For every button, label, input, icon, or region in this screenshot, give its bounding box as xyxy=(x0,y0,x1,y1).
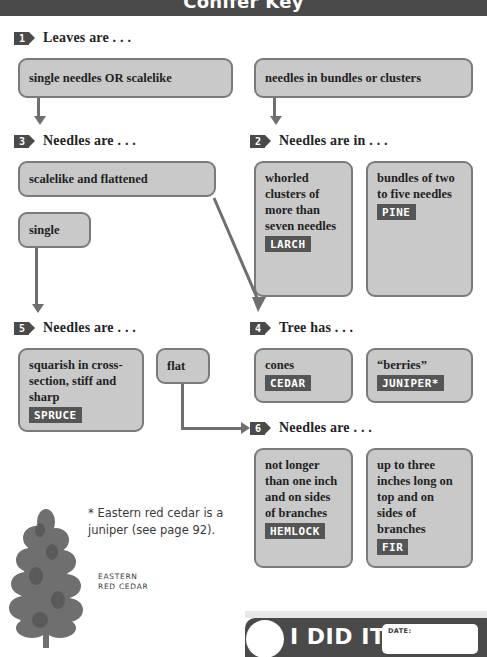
box-pine[interactable]: bundles of two to five needles PINE xyxy=(366,161,473,297)
box-scalelike-flattened-text: scalelike and flattened xyxy=(29,171,148,187)
box-cedar[interactable]: cones CEDAR xyxy=(254,348,353,403)
step-number-badge-2: 2 xyxy=(250,135,265,148)
step-header-5: 5 Needles are . . . xyxy=(14,320,136,336)
step-title-3: Needles are . . . xyxy=(43,133,136,149)
box-scalelike-flattened[interactable]: scalelike and flattened xyxy=(18,161,216,197)
connector-arrow-2 xyxy=(270,116,282,125)
box-flat-text: flat xyxy=(167,358,185,374)
species-chip-juniper: JUNIPER* xyxy=(377,375,444,391)
connector-line-2 xyxy=(273,98,276,118)
step-header-4: 4 Tree has . . . xyxy=(250,320,353,336)
box-hemlock-text: not longer than one inch and on sides of… xyxy=(265,457,342,521)
step-header-6: 6 Needles are . . . xyxy=(250,420,372,436)
connector-line-1 xyxy=(37,98,40,118)
box-juniper[interactable]: “berries” JUNIPER* xyxy=(366,348,473,403)
box-single-needles[interactable]: single needles OR scalelike xyxy=(18,58,233,98)
species-chip-hemlock: HEMLOCK xyxy=(265,523,325,539)
i-did-it-label: I DID IT! xyxy=(290,624,396,649)
tree-caption-line1: EASTERN xyxy=(98,572,148,582)
species-chip-fir: FIR xyxy=(377,539,408,555)
box-pine-text: bundles of two to five needles xyxy=(377,170,462,202)
connector-line-5 xyxy=(181,427,243,430)
page-title: Conifer Key xyxy=(0,0,487,12)
species-chip-pine: PINE xyxy=(377,204,416,220)
step-title-4: Tree has . . . xyxy=(279,320,353,336)
step-title-6: Needles are . . . xyxy=(279,420,372,436)
box-single-text: single xyxy=(29,222,60,238)
date-label: DATE: xyxy=(388,627,411,635)
tree-caption-line2: RED CEDAR xyxy=(98,582,148,592)
box-flat[interactable]: flat xyxy=(156,348,210,384)
box-fir-text: up to three inches long on top and on si… xyxy=(377,457,462,537)
page-header-bar: Conifer Key xyxy=(0,0,487,16)
step-number-badge-5: 5 xyxy=(14,322,29,335)
step-number-badge-6: 6 xyxy=(250,422,265,435)
box-single[interactable]: single xyxy=(18,212,91,248)
footnote-eastern-red-cedar: * Eastern red cedar is a juniper (see pa… xyxy=(88,505,238,539)
connector-line-3 xyxy=(35,248,38,306)
tree-caption: EASTERN RED CEDAR xyxy=(98,572,148,592)
step-title-1: Leaves are . . . xyxy=(43,30,131,46)
box-juniper-text: “berries” xyxy=(377,357,462,373)
connector-line-4 xyxy=(181,384,184,430)
box-bundles-clusters-text: needles in bundles or clusters xyxy=(265,70,421,86)
species-chip-larch: LARCH xyxy=(265,236,311,252)
box-larch[interactable]: whorled clusters of more than seven need… xyxy=(254,161,353,297)
box-spruce-text: squarish in cross-section, stiff and sha… xyxy=(29,357,133,405)
step-header-3: 3 Needles are . . . xyxy=(14,133,136,149)
box-hemlock[interactable]: not longer than one inch and on sides of… xyxy=(254,448,353,568)
box-spruce[interactable]: squarish in cross-section, stiff and sha… xyxy=(18,348,144,432)
step-header-2: 2 Needles are in . . . xyxy=(250,133,388,149)
step-title-5: Needles are . . . xyxy=(43,320,136,336)
banner-top-strip xyxy=(245,611,487,618)
step-number-badge-4: 4 xyxy=(250,322,265,335)
box-single-needles-text: single needles OR scalelike xyxy=(29,70,172,86)
step-number-badge-1: 1 xyxy=(14,32,29,45)
species-chip-spruce: SPRUCE xyxy=(29,407,82,423)
box-cedar-text: cones xyxy=(265,357,342,373)
connector-arrow-3 xyxy=(32,304,44,313)
step-title-2: Needles are in . . . xyxy=(279,133,388,149)
step-number-badge-3: 3 xyxy=(14,135,29,148)
connector-arrow-4 xyxy=(241,422,250,434)
box-larch-text: whorled clusters of more than seven need… xyxy=(265,170,342,234)
species-chip-cedar: CEDAR xyxy=(265,375,311,391)
step-header-1: 1 Leaves are . . . xyxy=(14,30,131,46)
box-bundles-clusters[interactable]: needles in bundles or clusters xyxy=(254,58,473,98)
connector-arrow-1 xyxy=(34,116,46,125)
i-did-it-checkbox-circle[interactable] xyxy=(246,620,284,657)
eastern-red-cedar-tree-illustration xyxy=(6,500,86,650)
box-fir[interactable]: up to three inches long on top and on si… xyxy=(366,448,473,568)
conifer-key-page: Conifer Key 1 Leaves are . . . single ne… xyxy=(0,0,487,657)
